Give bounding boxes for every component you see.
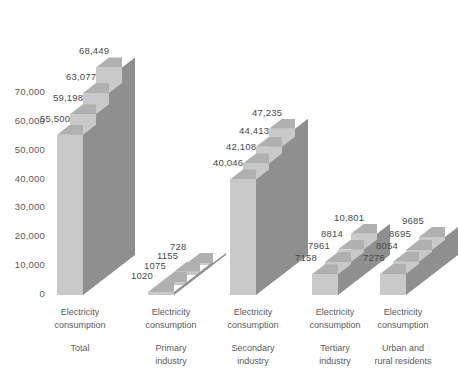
y-axis-tick-label: 60,000 <box>0 115 45 126</box>
bar-top-face <box>174 262 200 272</box>
x-axis-category-label: ElectricityconsumptionPrimaryindustry <box>132 306 210 367</box>
bar-column <box>148 292 174 295</box>
bar-side-face <box>96 104 109 285</box>
bar-top-face <box>419 227 445 237</box>
bar-value-label: 1020 <box>131 270 153 281</box>
bar-top-face <box>380 264 406 274</box>
category-label-line3: Tertiary <box>320 343 350 353</box>
bar-top-face <box>406 240 432 250</box>
y-axis-tick-label: 70,000 <box>0 86 45 97</box>
bar-value-label: 8054 <box>376 240 398 251</box>
bar-top-face <box>256 137 282 147</box>
bar-value-label: 7276 <box>363 252 385 263</box>
bar-side-face <box>122 57 135 265</box>
bar-front-face <box>230 179 256 295</box>
category-label-line3: Primary <box>156 343 187 353</box>
y-axis-tick-label: 30,000 <box>0 201 45 212</box>
bar-top-face <box>325 252 351 262</box>
category-label-line2: consumption <box>145 320 196 330</box>
category-label-line1: Electricity <box>384 307 423 317</box>
category-label-line2: consumption <box>309 320 360 330</box>
bar-value-label: 10,801 <box>334 212 364 223</box>
bar-column <box>380 274 406 295</box>
y-axis-tick-label: 0 <box>0 288 45 299</box>
bar-top-face <box>312 264 338 274</box>
category-label-line3: Total <box>70 343 89 353</box>
bar-value-label: 9685 <box>402 215 424 226</box>
bar-front-face <box>57 135 83 295</box>
bar-top-face <box>351 224 377 234</box>
bar-value-label: 63,077 <box>66 71 96 82</box>
bar-side-face <box>109 83 122 275</box>
bar-top-face <box>338 240 364 250</box>
category-label-line4: rural residents <box>374 356 431 366</box>
x-axis-category-label: ElectricityconsumptionTotal <box>41 306 119 355</box>
bar-value-label: 55,500 <box>40 113 70 124</box>
bar-top-face <box>57 125 83 135</box>
bar-value-label: 8814 <box>321 228 343 239</box>
category-label-line1: Electricity <box>152 307 191 317</box>
bar-value-label: 7158 <box>295 252 317 263</box>
category-label-line4: industry <box>237 356 269 366</box>
bar-value-label: 68,449 <box>79 45 109 56</box>
bar-front-face <box>312 274 338 295</box>
bar-column <box>230 179 256 295</box>
category-label-line2: consumption <box>54 320 105 330</box>
category-label-line1: Electricity <box>234 307 273 317</box>
category-label-line2: consumption <box>227 320 278 330</box>
category-label-line1: Electricity <box>316 307 355 317</box>
bar-side-face <box>282 137 295 275</box>
bar-side-face <box>256 169 269 295</box>
bar-side-face <box>213 253 226 265</box>
bar-side-face <box>295 119 308 265</box>
bar-side-face <box>445 227 458 265</box>
bar-top-face <box>393 252 419 262</box>
category-label-line4: industry <box>155 356 187 366</box>
bar-front-face <box>148 292 174 295</box>
bar-top-face <box>269 119 295 129</box>
bar-top-face <box>148 282 174 292</box>
bar-value-label: 7961 <box>308 240 330 251</box>
bar-value-label: 47,235 <box>252 107 282 118</box>
x-axis-category-label: ElectricityconsumptionTertiaryindustry <box>296 306 374 367</box>
bar-value-label: 59,198 <box>53 92 83 103</box>
y-axis-tick-label: 50,000 <box>0 144 45 155</box>
category-label-line2: consumption <box>377 320 428 330</box>
bar-front-face <box>380 274 406 295</box>
bar-top-face <box>96 57 122 67</box>
x-axis-category-label: ElectricityconsumptionSecondaryindustry <box>214 306 292 367</box>
y-axis-tick-label: 20,000 <box>0 230 45 241</box>
bar-column <box>312 274 338 295</box>
bar-value-label: 44,413 <box>239 125 269 136</box>
bar-value-label: 42,108 <box>226 141 256 152</box>
bar-top-face <box>70 104 96 114</box>
bar-column <box>57 135 83 295</box>
y-axis-tick-label: 10,000 <box>0 259 45 270</box>
bar-top-face <box>161 272 187 282</box>
bar-value-label: 8695 <box>389 228 411 239</box>
bar-side-face <box>269 153 282 285</box>
bar-top-face <box>243 153 269 163</box>
bar-side-face <box>83 125 96 295</box>
bar-top-face <box>83 83 109 93</box>
bar-top-face <box>187 253 213 263</box>
category-label-line1: Electricity <box>61 307 100 317</box>
category-label-line3: Secondary <box>231 343 274 353</box>
y-axis-tick-label: 40,000 <box>0 173 45 184</box>
x-axis-category-label: ElectricityconsumptionUrban andrural res… <box>364 306 442 367</box>
bar-value-label: 40,046 <box>213 157 243 168</box>
bar-top-face <box>230 169 256 179</box>
category-label-line3: Urban and <box>382 343 424 353</box>
category-label-line4: industry <box>319 356 351 366</box>
